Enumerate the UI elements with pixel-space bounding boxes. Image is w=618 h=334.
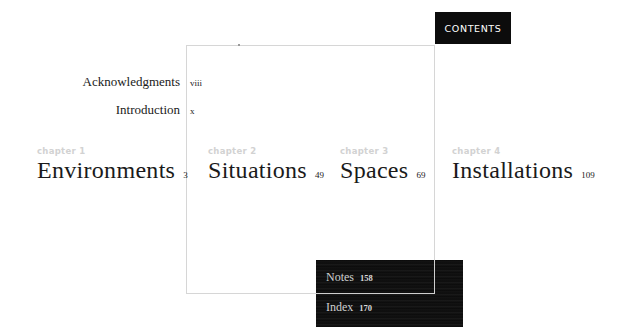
chapter-page: 69	[416, 170, 425, 180]
chapter-title: Situations	[208, 157, 307, 183]
entry-page: 170	[359, 303, 372, 313]
entry-page: x	[190, 106, 195, 116]
chapter-1[interactable]: chapter 1 Environments3	[37, 146, 188, 184]
chapter-2[interactable]: chapter 2 Situations49	[208, 146, 324, 184]
entry-label: Introduction	[116, 102, 186, 117]
contents-heading: CONTENTS	[435, 12, 511, 44]
chapter-page: 109	[581, 170, 595, 180]
back-matter-box: Notes158 Index170	[316, 260, 463, 327]
entry-page: 158	[360, 273, 373, 283]
front-matter-introduction[interactable]: Introduction	[0, 102, 186, 118]
frame-mark	[238, 44, 240, 46]
chapter-title: Spaces	[340, 157, 408, 183]
chapter-title: Installations	[452, 157, 573, 183]
chapter-page: 49	[315, 170, 324, 180]
back-matter-index[interactable]: Index170	[326, 300, 372, 315]
front-matter-acknowledgments[interactable]: Acknowledgments	[0, 74, 186, 90]
entry-page: viii	[190, 78, 202, 88]
entry-label: Acknowledgments	[83, 74, 186, 89]
chapter-kicker: chapter 4	[452, 146, 595, 157]
chapter-kicker: chapter 1	[37, 146, 188, 157]
chapter-page: 3	[183, 170, 188, 180]
contents-label: CONTENTS	[445, 23, 502, 34]
chapter-kicker: chapter 2	[208, 146, 324, 157]
chapter-4[interactable]: chapter 4 Installations109	[452, 146, 595, 184]
chapter-title: Environments	[37, 157, 175, 183]
entry-label: Index	[326, 300, 353, 314]
frame-line	[316, 293, 435, 294]
back-matter-notes[interactable]: Notes158	[326, 270, 373, 285]
frame-line	[434, 260, 435, 294]
chapter-kicker: chapter 3	[340, 146, 425, 157]
entry-label: Notes	[326, 270, 354, 284]
chapter-3[interactable]: chapter 3 Spaces69	[340, 146, 425, 184]
